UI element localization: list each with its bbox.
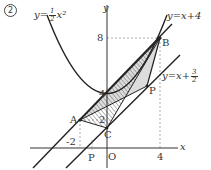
point-p-lower-label: P xyxy=(88,153,95,163)
point-b-label: B xyxy=(162,38,169,48)
parabola-label-prefix: y= xyxy=(34,9,48,20)
x-tick-4: 4 xyxy=(157,152,163,162)
y-axis-label: y xyxy=(103,3,109,13)
y-tick-8: 8 xyxy=(97,33,103,43)
point-a xyxy=(78,118,81,121)
y-tick-2: 2 xyxy=(99,115,105,125)
point-p-upper-label: P xyxy=(149,86,156,96)
y-tick-4: 4 xyxy=(99,89,105,99)
line2-label: y=x+32 xyxy=(162,69,199,84)
fraction-denominator: 2 xyxy=(49,16,55,23)
parabola-label: y=12x² xyxy=(34,8,66,23)
parabola-label-suffix: x² xyxy=(57,9,67,20)
x-tick-neg2: -2 xyxy=(66,137,76,147)
line1-label: y=x+4 xyxy=(167,11,201,21)
line2-const-fraction: 32 xyxy=(191,69,197,84)
point-p-upper xyxy=(146,85,149,88)
fraction-denominator: 2 xyxy=(191,77,197,84)
point-a-label: A xyxy=(70,115,77,125)
point-c-label: C xyxy=(104,130,112,140)
x-axis-label: x xyxy=(180,142,186,152)
origin-label: O xyxy=(108,152,116,162)
parabola-coef-fraction: 12 xyxy=(49,8,55,23)
problem-number-badge: 2 xyxy=(4,4,17,17)
line2-label-prefix: y=x+ xyxy=(162,70,190,81)
